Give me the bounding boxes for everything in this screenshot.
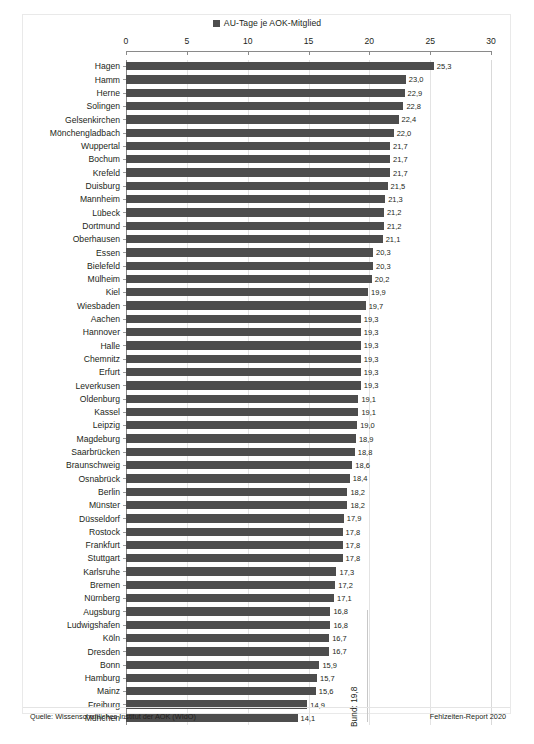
bar-chemnitz xyxy=(126,355,361,363)
bar-wiesbaden xyxy=(126,301,366,309)
report-note: Fehlzeiten-Report 2020 xyxy=(430,712,506,722)
category-label-münster: Münster xyxy=(20,499,120,511)
chart-row: Augsburg16,8 xyxy=(0,605,534,618)
category-label-köln: Köln xyxy=(20,632,120,644)
category-label-duisburg: Duisburg xyxy=(20,180,120,192)
bar-aachen xyxy=(126,315,361,323)
bar-frankfurt xyxy=(126,541,343,549)
category-label-bochum: Bochum xyxy=(20,153,120,165)
category-label-oberhausen: Oberhausen xyxy=(20,233,120,245)
category-label-augsburg: Augsburg xyxy=(20,606,120,618)
bar-düsseldorf xyxy=(126,514,344,522)
x-axis-tick-15: 15 xyxy=(304,36,314,47)
bar-value-label: 19,7 xyxy=(369,301,384,312)
bar-nürnberg xyxy=(126,594,334,602)
bar-dresden xyxy=(126,647,329,655)
bar-value-label: 23,0 xyxy=(409,74,424,85)
source-note: Quelle: Wissenschaftliches Institut der … xyxy=(30,712,196,722)
category-label-karlsruhe: Karlsruhe xyxy=(20,566,120,578)
chart-row: Solingen22,8 xyxy=(0,100,534,113)
bar-osnabrück xyxy=(126,474,350,482)
bar-value-label: 21,2 xyxy=(387,207,402,218)
category-label-lübeck: Lübeck xyxy=(20,207,120,219)
chart-row: Bremen17,2 xyxy=(0,579,534,592)
x-axis-tick-5: 5 xyxy=(184,36,189,47)
chart-row: Braunschweig18,6 xyxy=(0,459,534,472)
bar-krefeld xyxy=(126,168,390,176)
bar-value-label: 17,2 xyxy=(338,580,353,591)
category-label-rostock: Rostock xyxy=(20,526,120,538)
chart-row: Krefeld21,7 xyxy=(0,166,534,179)
bar-hannover xyxy=(126,328,361,336)
category-label-kassel: Kassel xyxy=(20,406,120,418)
legend-label: AU-Tage je AOK-Mitglied xyxy=(224,18,321,28)
x-axis-tick-0: 0 xyxy=(124,36,129,47)
bar-value-label: 15,9 xyxy=(322,660,337,671)
bar-value-label: 17,9 xyxy=(347,513,362,524)
category-label-dresden: Dresden xyxy=(20,646,120,658)
category-label-gelsenkirchen: Gelsenkirchen xyxy=(20,114,120,126)
bar-value-label: 16,8 xyxy=(333,606,348,617)
bar-value-label: 21,2 xyxy=(387,221,402,232)
category-label-krefeld: Krefeld xyxy=(20,167,120,179)
category-label-essen: Essen xyxy=(20,247,120,259)
bar-value-label: 18,2 xyxy=(350,500,365,511)
category-label-erfurt: Erfurt xyxy=(20,366,120,378)
chart-row: Osnabrück18,4 xyxy=(0,472,534,485)
category-label-frankfurt: Frankfurt xyxy=(20,539,120,551)
x-axis-tick-20: 20 xyxy=(365,36,375,47)
category-label-mülheim: Mülheim xyxy=(20,273,120,285)
category-label-ludwigshafen: Ludwigshafen xyxy=(20,619,120,631)
bar-köln xyxy=(126,634,329,642)
bar-value-label: 22,0 xyxy=(397,128,412,139)
bar-value-label: 19,1 xyxy=(361,407,376,418)
bar-münster xyxy=(126,501,347,509)
x-axis-tickmark xyxy=(491,51,492,55)
bar-value-label: 15,7 xyxy=(320,673,335,684)
category-label-mannheim: Mannheim xyxy=(20,193,120,205)
category-label-bonn: Bonn xyxy=(20,659,120,671)
bar-rostock xyxy=(126,528,343,536)
chart-row: Hannover19,3 xyxy=(0,326,534,339)
category-label-leverkusen: Leverkusen xyxy=(20,380,120,392)
bar-dortmund xyxy=(126,222,384,230)
category-label-hagen: Hagen xyxy=(20,60,120,72)
category-label-magdeburg: Magdeburg xyxy=(20,433,120,445)
x-axis-tick-30: 30 xyxy=(486,36,496,47)
x-axis-tickmark xyxy=(309,51,310,55)
chart-row: Halle19,3 xyxy=(0,339,534,352)
category-label-oldenburg: Oldenburg xyxy=(20,393,120,405)
category-label-chemnitz: Chemnitz xyxy=(20,353,120,365)
chart-row: Köln16,7 xyxy=(0,632,534,645)
bar-value-label: 20,3 xyxy=(376,247,391,258)
bar-bremen xyxy=(126,581,335,589)
category-label-hannover: Hannover xyxy=(20,326,120,338)
chart-row: Dortmund21,2 xyxy=(0,220,534,233)
category-label-berlin: Berlin xyxy=(20,486,120,498)
bar-value-label: 20,3 xyxy=(376,261,391,272)
bar-bochum xyxy=(126,155,390,163)
bar-ludwigshafen xyxy=(126,621,330,629)
chart-row: Magdeburg18,9 xyxy=(0,432,534,445)
x-axis-tickmark xyxy=(430,51,431,55)
bar-value-label: 17,3 xyxy=(339,567,354,578)
plot-area: Hagen25,3Hamm23,0Herne22,9Solingen22,8Ge… xyxy=(0,60,534,725)
category-label-bremen: Bremen xyxy=(20,579,120,591)
x-axis-tick-10: 10 xyxy=(243,36,253,47)
category-label-freiburg: Freiburg xyxy=(20,699,120,711)
bar-hamburg xyxy=(126,674,317,682)
chart-row: Kiel19,9 xyxy=(0,286,534,299)
chart-row: Hamburg15,7 xyxy=(0,672,534,685)
bar-value-label: 14,9 xyxy=(310,700,325,711)
bar-value-label: 22,8 xyxy=(406,101,421,112)
chart-row: Herne22,9 xyxy=(0,87,534,100)
category-label-hamburg: Hamburg xyxy=(20,672,120,684)
x-axis-tick-labels: 051015202530 xyxy=(0,36,534,50)
chart-row: Berlin18,2 xyxy=(0,486,534,499)
chart-row: Oldenburg19,1 xyxy=(0,393,534,406)
bar-berlin xyxy=(126,488,347,496)
bar-value-label: 17,8 xyxy=(346,540,361,551)
chart-row: Essen20,3 xyxy=(0,246,534,259)
category-label-mönchengladbach: Mönchengladbach xyxy=(20,127,120,139)
bar-mannheim xyxy=(126,195,385,203)
